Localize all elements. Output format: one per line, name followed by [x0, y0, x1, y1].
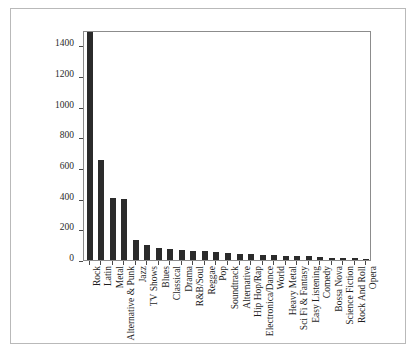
x-axis-tick-label: Reggae — [208, 266, 218, 295]
x-axis-tick-mark — [112, 261, 113, 265]
bar — [87, 32, 93, 260]
x-axis-tick-mark — [158, 261, 159, 265]
bar — [294, 256, 300, 260]
x-axis-tick-label: Hip Hop/Rap — [254, 266, 264, 317]
x-axis-tick-mark — [181, 261, 182, 265]
x-axis-tick-label: World — [277, 266, 287, 290]
y-axis: 0200400600800100012001400 — [11, 31, 83, 262]
bar — [110, 198, 116, 260]
x-axis-ticks — [83, 261, 371, 265]
x-axis-tick-mark — [204, 261, 205, 265]
x-axis-tick-mark — [169, 261, 170, 265]
x-axis-tick-label: Sci Fi & Fantasy — [300, 266, 310, 330]
x-axis-tick-label: Alternative & Punk — [127, 266, 137, 340]
x-axis-tick-label: Science Fiction — [346, 266, 356, 325]
x-axis-tick-label: Blues — [162, 266, 172, 288]
x-axis-tick-mark — [239, 261, 240, 265]
x-axis-tick-label: TV Shows — [150, 266, 160, 306]
x-axis-tick-mark — [89, 261, 90, 265]
x-axis-tick-mark — [262, 261, 263, 265]
x-axis-tick-mark — [146, 261, 147, 265]
x-axis-tick-mark — [100, 261, 101, 265]
x-axis-tick-label: Drama — [185, 266, 195, 292]
bar — [213, 252, 219, 260]
x-axis-tick-label: Rock — [93, 266, 103, 286]
bar — [248, 254, 254, 260]
x-axis-tick-mark — [342, 261, 343, 265]
x-axis-tick-mark — [215, 261, 216, 265]
x-axis-tick-mark — [354, 261, 355, 265]
x-axis-tick-label: Electronica/Dance — [266, 266, 276, 336]
y-axis-tick-label: 600 — [60, 162, 74, 172]
bar — [271, 255, 277, 260]
bar — [190, 251, 196, 260]
bar — [352, 258, 358, 260]
bar — [156, 248, 162, 260]
x-axis-tick-mark — [227, 261, 228, 265]
plot-area — [83, 31, 371, 261]
bar — [283, 256, 289, 260]
x-axis-tick-label: Latin — [104, 266, 114, 286]
x-axis-tick-label: Bossa Nova — [335, 266, 345, 312]
x-axis-tick-mark — [123, 261, 124, 265]
x-axis-tick-mark — [273, 261, 274, 265]
x-axis-tick-label: Rock And Roll — [358, 266, 368, 323]
bar — [167, 249, 173, 261]
x-axis-tick-label: Alternative — [243, 266, 253, 309]
bar — [260, 255, 266, 260]
x-axis-tick-mark — [192, 261, 193, 265]
bar — [179, 250, 185, 260]
x-axis-tick-mark — [331, 261, 332, 265]
x-axis-tick-mark — [135, 261, 136, 265]
y-axis-tick-label: 200 — [60, 223, 74, 233]
bar — [306, 256, 312, 260]
bar — [202, 251, 208, 260]
x-axis-tick-label: Heavy Metal — [289, 266, 299, 315]
x-axis-tick-label: Opera — [369, 266, 379, 289]
y-axis-tick-label: 1200 — [55, 70, 74, 80]
figure-frame: 0200400600800100012001400 RockLatinMetal… — [10, 8, 406, 344]
x-axis-tick-label: Jazz — [139, 266, 149, 282]
x-axis-tick-mark — [319, 261, 320, 265]
bar — [121, 199, 127, 260]
bar — [363, 259, 369, 260]
x-axis-tick-mark — [250, 261, 251, 265]
bar — [317, 257, 323, 260]
y-axis-tick-label: 1000 — [55, 101, 74, 111]
x-axis-tick-mark — [308, 261, 309, 265]
bar — [98, 160, 104, 260]
bar — [133, 240, 139, 260]
x-axis-tick-mark — [365, 261, 366, 265]
y-axis-tick-label: 0 — [69, 254, 74, 264]
bar — [340, 258, 346, 260]
x-axis-tick-label: Easy Listening — [312, 266, 322, 323]
x-axis-tick-label: Classical — [173, 266, 183, 300]
y-axis-tick-label: 400 — [60, 193, 74, 203]
x-axis-tick-label: Pop — [219, 266, 229, 281]
x-axis-tick-label: Metal — [116, 266, 126, 288]
bar — [225, 253, 231, 260]
bar-series — [84, 32, 370, 260]
y-axis-tick-label: 1400 — [55, 39, 74, 49]
y-axis-tick-label: 800 — [60, 131, 74, 141]
bar — [237, 254, 243, 260]
x-axis-tick-label: R&B/Soul — [196, 266, 206, 306]
x-axis-labels: RockLatinMetalAlternative & PunkJazzTV S… — [83, 266, 371, 346]
x-axis-tick-label: Soundtrack — [231, 266, 241, 309]
x-axis-tick-label: Comedy — [323, 266, 333, 298]
x-axis-tick-mark — [296, 261, 297, 265]
bar — [329, 258, 335, 260]
bar — [144, 245, 150, 260]
x-axis-tick-mark — [285, 261, 286, 265]
